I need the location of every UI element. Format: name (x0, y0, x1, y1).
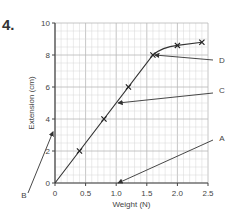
y-tick-label: 4 (46, 115, 51, 124)
y-tick-label: 6 (46, 83, 51, 92)
annotation-arrow-d (155, 55, 213, 60)
annotation-label-b: B (21, 191, 26, 200)
x-tick-label: 2.5 (202, 189, 214, 198)
y-tick-label: 8 (46, 51, 51, 60)
annotation-arrow-a (118, 140, 213, 183)
y-tick-label: 10 (41, 19, 50, 28)
x-tick-label: 1.0 (111, 189, 123, 198)
x-tick-label: 2.0 (172, 189, 184, 198)
y-tick-label: 0 (46, 179, 51, 188)
x-tick-label: 0.5 (80, 189, 92, 198)
extension-weight-chart: 00.51.01.52.02.50246810Weight (N)Extensi… (0, 0, 232, 209)
annotation-arrow-c (118, 93, 213, 103)
y-axis-title: Extension (cm) (27, 76, 36, 130)
annotation-label-a: A (219, 134, 225, 143)
x-tick-label: 1.5 (141, 189, 153, 198)
x-axis-title: Weight (N) (112, 200, 150, 209)
x-tick-label: 0 (53, 189, 58, 198)
annotation-label-c: C (219, 86, 225, 95)
annotation-label-d: D (219, 56, 225, 65)
